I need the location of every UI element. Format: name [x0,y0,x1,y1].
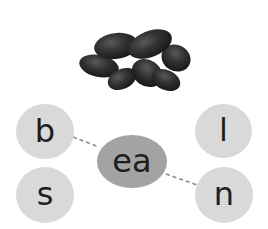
letter-s-label: s [37,178,54,210]
letter-l-label: l [219,114,228,146]
vowel-bubble-ea[interactable]: ea [97,135,167,188]
connector-ea-to-n [166,174,197,185]
word-building-activity: b s ea l n [0,0,268,229]
letter-bubble-s[interactable]: s [16,167,74,223]
beans-illustration-icon [0,0,268,100]
letter-b-label: b [35,115,55,147]
connector-b-to-ea [73,137,99,147]
letter-n-label: n [214,178,234,210]
vowel-ea-label: ea [112,145,151,177]
letter-bubble-l[interactable]: l [195,104,252,158]
letter-bubble-b[interactable]: b [16,104,74,159]
letter-bubble-n[interactable]: n [195,167,253,223]
